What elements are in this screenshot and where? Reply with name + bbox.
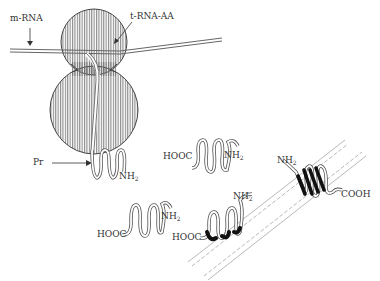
trna-label: t-RNA-AA: [130, 12, 174, 21]
nh2-top-label: NH2: [224, 151, 244, 161]
pr-arrow: [52, 160, 92, 166]
nh2-membrane-label: NH2: [233, 192, 253, 202]
nh2-left-label: NH2: [161, 212, 181, 222]
nh2-transmembrane-label: NH2: [277, 156, 297, 166]
hooc-left-label: HOOC: [97, 230, 127, 239]
mrna-arrow: [27, 28, 33, 46]
hooc-top-label: HOOC: [163, 152, 193, 161]
nh2-main-label: NH2: [119, 172, 139, 182]
diagram-canvas: m-RNA t-RNA-AA Pr NH2 HOOC NH2 HOOC NH2 …: [0, 0, 380, 281]
hooc-membrane-label: HOOC: [172, 233, 202, 242]
cooh-transmembrane-label: COOH: [341, 190, 371, 199]
pr-label: Pr: [33, 158, 43, 167]
mrna-label: m-RNA: [10, 14, 43, 23]
